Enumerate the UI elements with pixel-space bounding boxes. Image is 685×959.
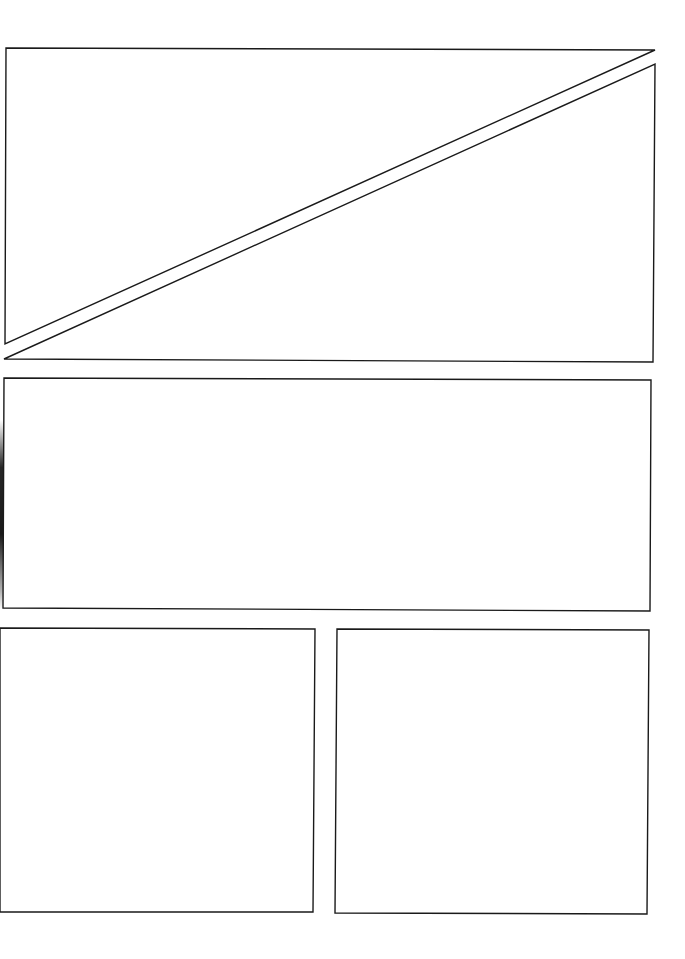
panel-layout xyxy=(0,0,685,959)
panel-bottom-right xyxy=(335,629,649,914)
panel-bottom-left xyxy=(0,628,315,912)
comic-page xyxy=(0,0,685,959)
panel-middle-wide xyxy=(3,378,651,611)
